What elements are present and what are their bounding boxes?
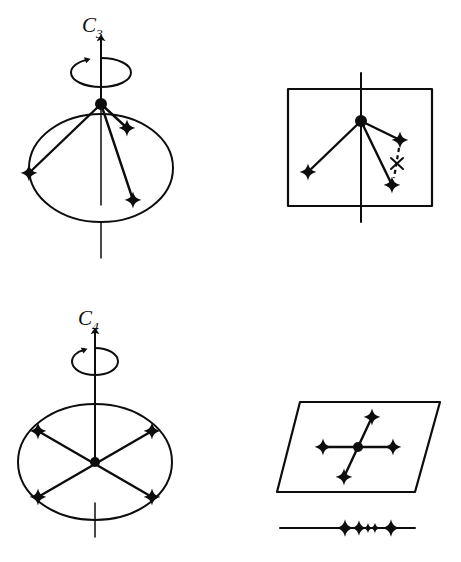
mirror-ligand-lower-right xyxy=(384,177,401,194)
c3-label-letter: C xyxy=(82,13,97,37)
plane-ligand-back xyxy=(364,409,381,426)
c4-axis-label: C4 xyxy=(78,306,99,334)
c4-center-atom xyxy=(90,457,100,467)
edge-on-ligand-center-b xyxy=(370,523,380,533)
reflection-crossed-out-icon xyxy=(391,158,403,169)
mirror-bond-left xyxy=(308,121,361,172)
panel-c3-mirror-plane xyxy=(288,73,432,222)
plane-ligand-right xyxy=(385,439,402,456)
c3-apex-atom xyxy=(95,98,107,110)
c4-ligand-back-left xyxy=(30,423,47,440)
panel-c3-axis-cone: C3 xyxy=(21,13,173,258)
c3-ligand-front xyxy=(125,192,142,209)
c3-label-subscript: 3 xyxy=(95,26,103,41)
c4-ligand-front-right xyxy=(144,489,161,506)
figure-root: C3 xyxy=(0,0,461,562)
c3-axis-label: C3 xyxy=(82,13,103,41)
edge-on-ligand-left xyxy=(336,519,354,537)
c4-ligand-back-right xyxy=(144,423,161,440)
plane-ligand-front xyxy=(336,469,353,486)
mirror-bond-lower-right xyxy=(361,121,392,185)
mirror-central-atom xyxy=(355,115,367,127)
edge-on-ligand-right xyxy=(382,519,400,537)
plane-ligand-left xyxy=(315,439,332,456)
panel-c4-plane-parallelogram xyxy=(277,402,440,492)
symmetry-figure: C3 xyxy=(0,0,461,562)
panel-c4-axis-planar: C4 xyxy=(18,306,172,537)
plane-center-atom xyxy=(353,442,363,452)
c4-ligand-front-left xyxy=(30,489,47,506)
c4-label-letter: C xyxy=(78,306,93,330)
panel-c4-edge-on-view xyxy=(280,519,415,537)
c4-label-subscript: 4 xyxy=(92,319,99,334)
mirror-ligand-upper-right xyxy=(392,132,409,149)
